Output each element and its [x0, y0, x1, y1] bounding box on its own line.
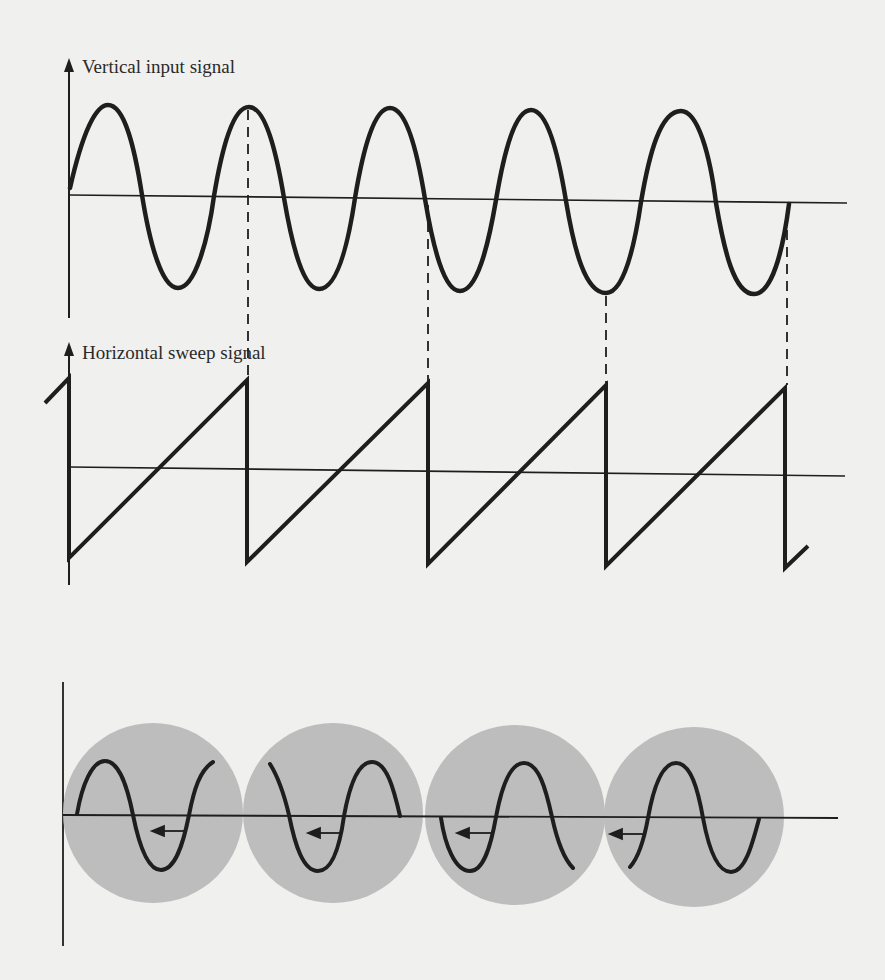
- sawtooth-waveform: [45, 378, 808, 568]
- vertical-signal-panel: [64, 58, 847, 318]
- arrow-up-icon: [64, 58, 74, 72]
- screen-panel: [63, 682, 838, 946]
- diagram-canvas: [0, 0, 885, 980]
- screen-circle-1: [63, 723, 243, 903]
- screen-circle-2: [243, 723, 423, 903]
- arrow-up-icon: [64, 342, 74, 356]
- screen-circle-3: [425, 725, 605, 905]
- horizontal-baseline: [69, 467, 845, 476]
- horizontal-signal-panel: [45, 342, 845, 585]
- vertical-baseline: [69, 195, 847, 203]
